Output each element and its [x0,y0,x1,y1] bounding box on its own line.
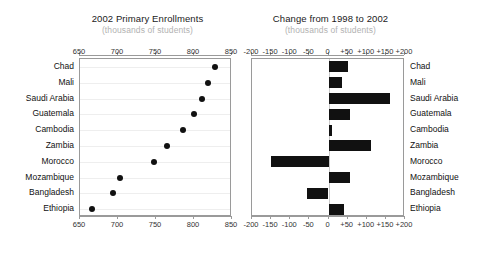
dot-and-bar-chart-figure: 2002 Primary Enrollments (thousands of s… [0,0,478,272]
category-label: Chad [410,61,430,71]
data-bar [271,156,328,167]
data-bar [329,204,344,215]
axis-tick-label: 650 [73,47,86,56]
data-bar [329,140,371,151]
gridline [80,130,230,131]
left-panel-subtitle: (thousands of students) [60,25,235,35]
axis-tick-label: 800 [187,47,200,56]
axis-tick-mark [117,216,118,219]
axis-tick-label: -150 [263,220,278,229]
axis-tick-mark [231,216,232,219]
axis-tick-label: 0 [325,220,329,229]
axis-tick-label: 850 [225,47,238,56]
axis-tick-label: -150 [263,47,278,56]
axis-tick-label: +50 [340,47,353,56]
data-point-marker [110,190,116,196]
category-label: Cambodia [35,124,74,134]
data-point-marker [205,80,211,86]
axis-tick-label: 750 [149,47,162,56]
axis-tick-label: 700 [111,220,124,229]
data-bar [329,61,348,72]
category-label: Saudi Arabia [26,93,74,103]
axis-tick-label: 0 [325,47,329,56]
data-point-marker [164,143,170,149]
category-label: Mali [410,77,426,87]
axis-tick-label: -200 [243,47,258,56]
axis-tick-mark [328,216,329,219]
gridline [80,178,230,179]
data-bar [329,77,342,88]
category-label: Chad [54,61,74,71]
gridline [80,114,230,115]
data-bar [329,109,350,120]
category-label: Mali [58,77,74,87]
axis-tick-label: +200 [396,47,413,56]
axis-tick-mark [79,216,80,219]
left-panel-bottom-axis: 650700750800850 [79,216,231,228]
category-label: Zambia [410,140,438,150]
axis-tick-label: -50 [303,220,314,229]
category-label: Morocco [41,156,74,166]
category-label: Ethiopia [410,203,441,213]
right-panel-bottom-axis: -200-150-100-500+50+100+150+200 [251,216,404,228]
axis-tick-mark [193,216,194,219]
category-label: Guatemala [410,108,452,118]
axis-tick-label: +150 [376,47,393,56]
data-bar [307,188,328,199]
enrollments-dot-plot [79,58,231,216]
data-bar [329,125,332,136]
axis-tick-label: -50 [303,47,314,56]
axis-tick-mark [347,216,348,219]
left-category-labels: ChadMaliSaudi ArabiaGuatemalaCambodiaZam… [0,58,74,216]
category-label: Bangladesh [29,187,74,197]
data-point-marker [117,175,123,181]
axis-tick-label: 800 [187,220,200,229]
data-bar [329,93,390,104]
axis-tick-label: +150 [376,220,393,229]
category-label: Ethiopia [43,203,74,213]
right-category-labels: ChadMaliSaudi ArabiaGuatemalaCambodiaZam… [410,58,478,216]
data-point-marker [89,206,95,212]
gridline [80,193,230,194]
data-point-marker [180,127,186,133]
gridline [80,99,230,100]
axis-tick-label: +200 [396,220,413,229]
category-label: Saudi Arabia [410,93,458,103]
axis-tick-mark [251,216,252,219]
axis-tick-label: 750 [149,220,162,229]
category-label: Bangladesh [410,187,455,197]
gridline [80,209,230,210]
category-label: Cambodia [410,124,449,134]
left-panel-title: 2002 Primary Enrollments [60,13,235,24]
category-label: Guatemala [32,108,74,118]
category-label: Mozambique [25,172,74,182]
category-label: Morocco [410,156,443,166]
data-bar [329,172,350,183]
axis-tick-mark [308,216,309,219]
data-point-marker [212,64,218,70]
axis-tick-mark [289,216,290,219]
axis-tick-label: 700 [111,47,124,56]
left-panel-top-axis: 650700750800850 [79,46,231,58]
gridline [80,67,230,68]
change-bar-chart [251,58,404,216]
data-point-marker [199,96,205,102]
axis-tick-label: +100 [357,220,374,229]
axis-tick-mark [366,216,367,219]
axis-tick-mark [270,216,271,219]
category-label: Mozambique [410,172,459,182]
axis-tick-label: +50 [340,220,353,229]
right-panel-title: Change from 1998 to 2002 [243,13,418,24]
right-panel-top-axis: -200-150-100-500+50+100+150+200 [251,46,404,58]
axis-tick-label: 650 [73,220,86,229]
category-label: Zambia [46,140,74,150]
axis-tick-mark [385,216,386,219]
axis-tick-mark [155,216,156,219]
data-point-marker [151,159,157,165]
axis-tick-label: -100 [282,220,297,229]
axis-tick-label: -100 [282,47,297,56]
axis-tick-mark [404,216,405,219]
axis-tick-label: 850 [225,220,238,229]
right-panel-subtitle: (thousands of students) [243,25,418,35]
data-point-marker [191,111,197,117]
